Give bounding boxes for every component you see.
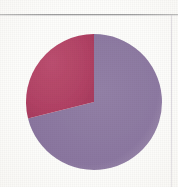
figure-page: Two-slice pie chart: a raspberry-red sli… [0, 0, 178, 187]
pie-chart-svg [0, 0, 178, 187]
pie-chart[interactable] [0, 0, 178, 187]
